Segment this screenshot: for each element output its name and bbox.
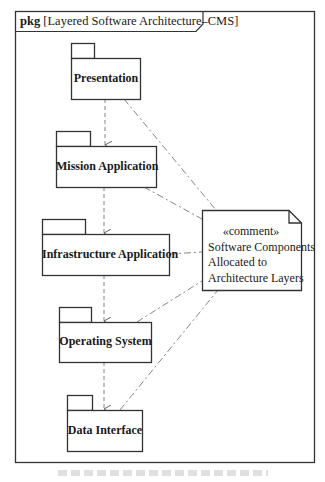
package-label-operating-system: Operating System — [59, 334, 152, 348]
package-label-data-interface: Data Interface — [67, 423, 143, 437]
anchor-mission-application — [144, 187, 202, 219]
comment-line: Allocated to — [204, 255, 302, 271]
comment-line: Architecture Layers — [204, 271, 302, 287]
frame-title: pkg [Layered Software Architecture–CMS] — [20, 14, 238, 29]
comment-text: «comment» Software Components Allocated … — [204, 224, 302, 286]
package-label-infrastructure-application: Infrastructure Application — [42, 247, 170, 261]
frame-name: [Layered Software Architecture–CMS] — [43, 14, 238, 28]
comment-line: Software Components — [204, 240, 302, 256]
package-label-mission-application: Mission Application — [56, 159, 157, 173]
faded-caption — [58, 470, 268, 476]
comment-stereotype: «comment» — [204, 224, 302, 240]
anchor-operating-system — [137, 281, 202, 322]
package-label-presentation: Presentation — [71, 71, 141, 85]
frame-keyword: pkg — [20, 14, 40, 28]
